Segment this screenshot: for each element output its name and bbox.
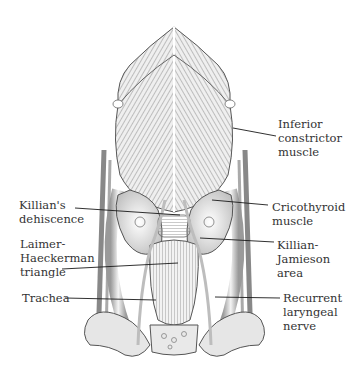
label-line: laryngeal: [283, 305, 342, 319]
label-laimer-haeckerman: Laimer- Haeckerman triangle: [20, 237, 95, 279]
label-trachea: Trachea: [22, 291, 70, 305]
label-line: Cricothyroid: [272, 200, 345, 214]
label-killians-dehiscence: Killian's dehiscence: [19, 198, 84, 226]
label-line: Recurrent: [283, 291, 342, 305]
anatomy-diagram: Inferior constrictor muscle Killian's de…: [0, 0, 349, 380]
label-recurrent-laryngeal: Recurrent laryngeal nerve: [283, 291, 342, 333]
label-line: muscle: [272, 214, 345, 228]
label-line: Jamieson: [277, 252, 330, 266]
label-line: constrictor: [278, 131, 342, 145]
label-line: area: [277, 266, 330, 280]
label-line: Killian's: [19, 198, 84, 212]
label-line: Killian-: [277, 238, 330, 252]
label-line: nerve: [283, 319, 342, 333]
label-line: triangle: [20, 265, 95, 279]
label-line: dehiscence: [19, 212, 84, 226]
label-inferior-constrictor: Inferior constrictor muscle: [278, 117, 342, 159]
cricopharyngeus: [158, 215, 190, 237]
esophagus: [150, 240, 199, 325]
label-killian-jamieson: Killian- Jamieson area: [277, 238, 330, 280]
label-line: Inferior: [278, 117, 342, 131]
inferior-constrictor-muscle: [113, 27, 235, 212]
trachea-stub: [150, 325, 198, 355]
leader-recurrent-laryngeal: [215, 297, 280, 298]
label-cricothyroid: Cricothyroid muscle: [272, 200, 345, 228]
label-line: Laimer-: [20, 237, 95, 251]
label-line: Haeckerman: [20, 251, 95, 265]
label-line: Trachea: [22, 291, 70, 305]
leader-inferior-constrictor: [233, 128, 276, 136]
label-line: muscle: [278, 145, 342, 159]
